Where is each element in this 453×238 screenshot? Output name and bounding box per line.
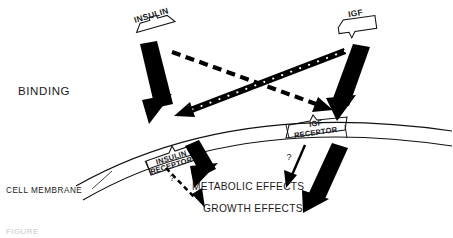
growth-effects-label: GROWTH EFFECTS: [203, 203, 303, 214]
figure-caption-fragment: FIGURE: [6, 227, 39, 236]
figure-canvas: INSULIN IGF INSULIN RECEPTOR IGF RECEPTO…: [0, 0, 453, 238]
insulin-igf-binding-diagram: INSULIN IGF INSULIN RECEPTOR IGF RECEPTO…: [0, 0, 453, 238]
query-left: ?: [169, 173, 174, 183]
metabolic-effects-label: METABOLIC EFFECTS: [192, 181, 304, 192]
query-right: ?: [286, 152, 291, 162]
cell-membrane-label: CELL MEMBRANE: [6, 186, 82, 195]
stage-label-binding: BINDING: [18, 85, 70, 97]
